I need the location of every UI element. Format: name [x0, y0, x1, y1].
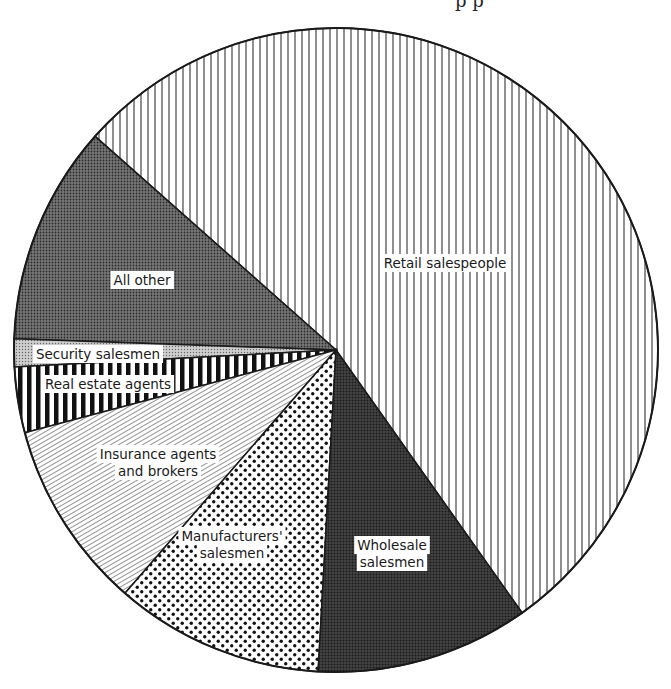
slice-label: Wholesalesalesmen	[354, 536, 430, 571]
slice-label: Retail salespeople	[381, 254, 510, 272]
slice-label-text: Security salesmen	[36, 346, 160, 362]
slice-label-text: salesmen	[360, 554, 424, 570]
slice-label: Real estate agents	[42, 375, 174, 393]
slice-label-text: Retail salespeople	[384, 255, 507, 271]
slice-label-text: and brokers	[118, 463, 198, 479]
slice-label-text: Manufacturers'	[181, 528, 282, 544]
slice-label: Security salesmen	[33, 345, 163, 363]
pie-chart: Retail salespeopleAll otherSecurity sale…	[0, 0, 671, 689]
slice-label: Insurance agentsand brokers	[97, 445, 220, 480]
slice-label-text: All other	[114, 272, 171, 288]
slice-label-text: Wholesale	[357, 537, 427, 553]
slice-label-text: Insurance agents	[100, 446, 217, 462]
slice-label: All other	[111, 271, 174, 289]
slice-label-text: Real estate agents	[45, 376, 171, 392]
slice-label-text: salesmen	[200, 545, 264, 561]
